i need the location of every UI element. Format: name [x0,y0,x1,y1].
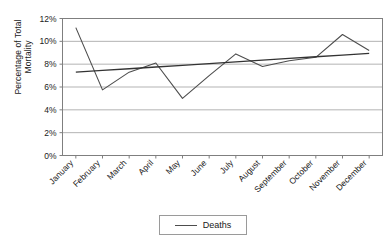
x-axis-tick-label: May [163,157,182,176]
y-axis-tick-label: 10% [39,36,56,46]
y-axis-tick-labels: 0%2%4%6%8%10%12% [39,14,56,161]
y-axis-tick-label: 12% [39,14,56,24]
x-axis-tick-label: March [105,158,129,182]
y-axis-tick-label: 0% [44,151,57,161]
x-axis-tick-label: April [136,158,155,177]
y-axis-tick-label: 4% [44,105,57,115]
chart-plot-area: 0%2%4%6%8%10%12% JanuaryFebruaryMarchApr… [0,0,390,246]
x-axis-tick-label: July [217,157,235,175]
chart-container: Percentage of Total Mortality 0%2%4%6%8%… [0,0,390,246]
legend-label-deaths: Deaths [203,221,232,230]
series-lines [76,28,369,99]
legend-line-swatch [175,225,197,226]
chart-legend: Deaths [159,215,247,235]
gridlines [60,19,383,156]
x-axis-tick-label: February [71,157,103,189]
series-line-linear-trend [76,53,369,72]
y-axis-tick-label: 2% [44,128,57,138]
y-axis-tick-label: 6% [44,82,57,92]
x-axis-tick-label: June [188,158,208,178]
y-axis-tick-label: 8% [44,59,57,69]
x-axis-tick-labels: JanuaryFebruaryMarchAprilMayJuneJulyAugu… [47,156,369,195]
